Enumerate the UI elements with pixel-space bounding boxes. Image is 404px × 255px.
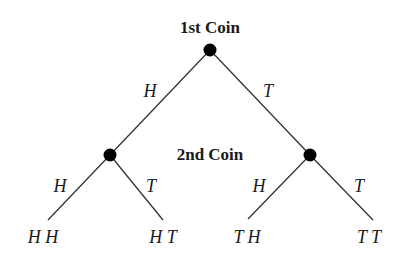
outcome-tt: T T bbox=[357, 227, 383, 247]
outcome-th: T H bbox=[233, 227, 261, 247]
branch-label-right-right: T bbox=[354, 176, 366, 196]
outcome-hh: H H bbox=[27, 227, 59, 247]
root-node bbox=[204, 44, 217, 57]
tree-diagram: 1st Coin 2nd Coin H T H T H T H H H T T … bbox=[0, 0, 404, 255]
second-coin-label: 2nd Coin bbox=[177, 145, 244, 164]
outcome-ht: H T bbox=[148, 227, 178, 247]
right-node bbox=[304, 149, 317, 162]
branch-label-root-left: H bbox=[143, 81, 158, 101]
branch-label-root-right: T bbox=[263, 81, 275, 101]
left-node bbox=[104, 149, 117, 162]
edge-root-right bbox=[210, 50, 310, 155]
first-coin-label: 1st Coin bbox=[180, 18, 241, 37]
branch-label-right-left: H bbox=[252, 176, 267, 196]
branch-label-left-right: T bbox=[146, 176, 158, 196]
branch-label-left-left: H bbox=[53, 176, 68, 196]
edge-root-left bbox=[110, 50, 210, 155]
